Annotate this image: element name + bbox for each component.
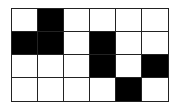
grid-cell-empty	[38, 55, 64, 78]
grid-cell-empty	[116, 32, 142, 55]
grid-cell-filled	[12, 32, 38, 55]
grid-cell-empty	[90, 9, 116, 32]
grid-cell-filled	[90, 55, 116, 78]
grid-cell-filled	[90, 32, 116, 55]
grid-cell-filled	[38, 9, 64, 32]
grid-cell-empty	[12, 55, 38, 78]
grid-cell-empty	[64, 32, 90, 55]
grid-cell-empty	[142, 32, 168, 55]
grid-cell-empty	[38, 78, 64, 101]
grid-cell-empty	[64, 9, 90, 32]
pixel-grid	[11, 8, 169, 102]
grid-cell-empty	[12, 9, 38, 32]
grid-cell-empty	[116, 55, 142, 78]
grid-cell-empty	[142, 78, 168, 101]
grid-cell-empty	[142, 9, 168, 32]
grid-cell-empty	[90, 78, 116, 101]
grid-cell-empty	[64, 55, 90, 78]
grid-cell-filled	[142, 55, 168, 78]
grid-cell-filled	[38, 32, 64, 55]
grid-cell-empty	[12, 78, 38, 101]
grid-cell-empty	[64, 78, 90, 101]
grid-cell-filled	[116, 78, 142, 101]
grid-cell-empty	[116, 9, 142, 32]
